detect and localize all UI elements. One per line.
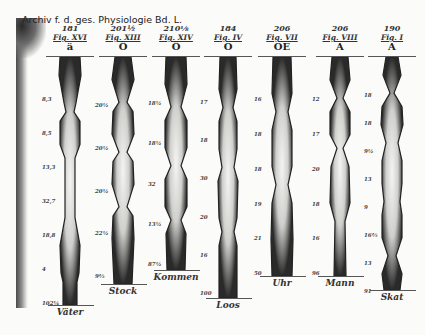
measurement-label: 32: [148, 181, 156, 187]
word-caption: Uhr: [254, 278, 310, 288]
figure-number: 206: [260, 24, 304, 33]
measurement-label: 18: [312, 201, 320, 207]
vowel-label: A: [370, 42, 414, 52]
bottom-rule: [154, 270, 200, 271]
measurement-label: 17: [200, 99, 208, 105]
sound-trace: [318, 57, 362, 276]
vowel-label: ä: [48, 42, 92, 52]
measurement-label: 16⅔: [364, 232, 377, 238]
sound-trace: [260, 57, 304, 276]
measurement-label: 9⅔: [95, 273, 105, 279]
measurement-label: 13: [364, 260, 372, 266]
measurement-label: 18½: [148, 100, 161, 106]
measurement-label: 18,8: [42, 232, 55, 238]
tracing-column: 201½Fig. XIIIÖ20½20½20½22½9⅔Stock: [101, 24, 145, 52]
sound-trace: [206, 57, 250, 298]
measurement-label: 12: [312, 96, 320, 102]
tracing-column: 206Fig. VIIIA121720181696Mann: [318, 24, 362, 52]
bottom-rule: [260, 276, 306, 277]
measurement-label: 18: [254, 166, 262, 172]
measurement-label: 8,3: [42, 96, 52, 102]
measurement-label: 9: [364, 204, 368, 210]
tracing-column: 184Fig. IVO1718302016100Loos: [206, 24, 250, 52]
tracing-column: 210⅛Fig. XIVÖ18½18½3213½87½Kommen: [154, 24, 198, 52]
measurement-label: 32,7: [42, 198, 55, 204]
tracing-column: 206Fig. VIIOE161818192150Uhr: [260, 24, 304, 52]
figure-number: 184: [206, 24, 250, 33]
vowel-label: O: [206, 42, 250, 52]
measurement-label: 13: [364, 176, 372, 182]
measurement-label: 16: [200, 252, 208, 258]
word-caption: Stock: [95, 286, 151, 296]
word-caption: Kommen: [148, 272, 204, 282]
measurement-label: 18: [254, 131, 262, 137]
measurement-label: 20½: [95, 188, 108, 194]
tracing-column: 181Fig. XVIä8,38,513,332,718,84102¼Väter: [48, 24, 92, 52]
sound-trace: [48, 57, 92, 305]
measurement-label: 30: [200, 175, 208, 181]
measurement-label: 87½: [148, 261, 161, 267]
vowel-label: Ö: [154, 42, 198, 52]
measurement-label: 20: [312, 166, 320, 172]
measurement-label: 20½: [95, 102, 108, 108]
measurement-label: 22½: [95, 230, 108, 236]
figure-number: 210⅛: [154, 24, 198, 33]
measurement-label: 13½: [148, 221, 161, 227]
bottom-rule: [206, 298, 252, 299]
vowel-label: Ö: [101, 42, 145, 52]
measurement-label: 18: [364, 120, 372, 126]
sound-trace: [370, 57, 414, 290]
measurement-label: 21: [254, 235, 262, 241]
bottom-rule: [370, 290, 416, 291]
measurement-label: 19: [254, 201, 262, 207]
measurement-label: 16: [312, 235, 320, 241]
measurement-label: 16: [254, 96, 262, 102]
bottom-rule: [48, 305, 94, 306]
word-caption: Loos: [200, 300, 256, 310]
vowel-label: A: [318, 42, 362, 52]
measurement-label: 18: [200, 137, 208, 143]
word-caption: Väter: [42, 307, 98, 317]
sound-trace: [154, 57, 198, 270]
figure-number: 181: [48, 24, 92, 33]
sound-trace: [101, 57, 145, 284]
vowel-label: OE: [260, 42, 304, 52]
figure-number: 206: [318, 24, 362, 33]
measurement-label: 9½: [364, 148, 374, 154]
measurement-label: 18: [364, 92, 372, 98]
measurement-label: 17: [312, 131, 320, 137]
word-caption: Mann: [312, 278, 368, 288]
measurement-label: 4: [42, 266, 46, 272]
measurement-label: 18½: [148, 140, 161, 146]
word-caption: Skat: [364, 292, 420, 302]
tracing-column: 190Fig. IA18189½13916⅔1391Skat: [370, 24, 414, 52]
measurement-label: 20: [200, 214, 208, 220]
figure-number: 190: [370, 24, 414, 33]
measurement-label: 100: [200, 290, 211, 296]
bottom-rule: [318, 276, 364, 277]
measurement-label: 20½: [95, 145, 108, 151]
measurement-label: 13,3: [42, 164, 55, 170]
measurement-label: 8,5: [42, 130, 52, 136]
scan-shadow-edge: [16, 18, 28, 308]
figure-number: 201½: [101, 24, 145, 33]
bottom-rule: [101, 284, 147, 285]
